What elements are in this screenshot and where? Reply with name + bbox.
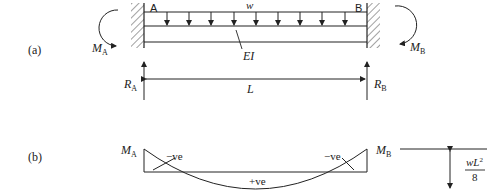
max-moment-label: wL2 8 — [465, 156, 485, 183]
fixed-beam-diagram: (a) A B w EI MA MB RA RB L (b) — [0, 0, 500, 190]
right-fixed-support — [367, 3, 380, 48]
moment-b-arrow — [395, 6, 417, 44]
reaction-b-label: RB — [373, 77, 387, 93]
moment-a-label: MA — [91, 41, 108, 57]
positive-label: +ve — [249, 175, 266, 187]
reaction-a-label: RA — [123, 77, 137, 93]
stiffness-label: EI — [242, 49, 255, 63]
bmd-moment-b-label: MB — [375, 143, 391, 159]
neg-left-label: −ve — [166, 150, 183, 162]
span-label: L — [246, 82, 254, 96]
part-a-label: (a) — [28, 43, 41, 57]
bmd-moment-a-label: MA — [120, 143, 137, 159]
load-label: w — [246, 0, 254, 11]
neg-right-label: −ve — [324, 150, 341, 162]
svg-text:wL2: wL2 — [466, 156, 483, 168]
left-fixed-support — [131, 3, 144, 48]
udl-arrows — [167, 12, 345, 25]
svg-text:8: 8 — [472, 171, 478, 183]
moment-b-label: MB — [409, 40, 425, 56]
part-b-label: (b) — [28, 150, 42, 164]
